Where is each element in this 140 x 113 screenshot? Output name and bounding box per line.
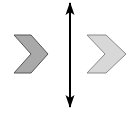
diagram-svg: Two chevron arrow shapes separated by a … [0,0,140,113]
figure-canvas: Two chevron arrow shapes separated by a … [0,0,140,113]
